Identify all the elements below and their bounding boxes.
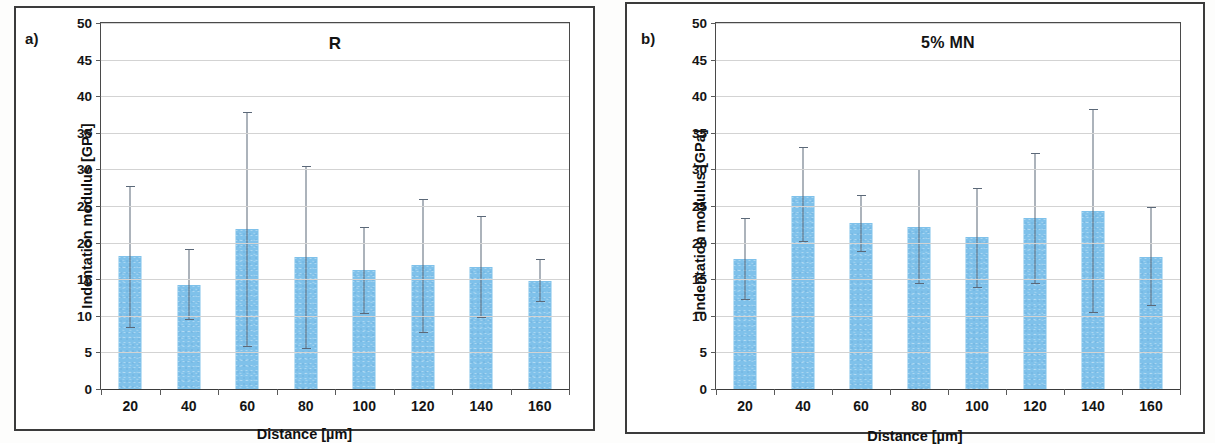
- y-tick-label: 40: [692, 89, 707, 104]
- y-tick-label: 5: [699, 345, 707, 360]
- gridline: [101, 169, 569, 170]
- error-bar-cap-top: [857, 195, 866, 196]
- error-bar-cap-bottom: [973, 287, 982, 288]
- y-tick-label: 45: [77, 52, 92, 67]
- x-tick-label: 140: [1081, 398, 1104, 414]
- x-tick-mark: [160, 389, 161, 395]
- error-bar-cap-top: [302, 166, 311, 167]
- gridline: [101, 279, 569, 280]
- error-bar-cap-bottom: [419, 332, 428, 333]
- error-bar: [539, 259, 540, 301]
- y-tick-mark: [711, 133, 716, 134]
- gridline: [716, 206, 1180, 207]
- gridline: [716, 169, 1180, 170]
- y-tick-label: 30: [692, 162, 707, 177]
- y-tick-mark: [96, 316, 101, 317]
- error-bar-cap-bottom: [1089, 312, 1098, 313]
- x-tick-label: 160: [1139, 398, 1162, 414]
- x-tick-mark: [1006, 389, 1007, 395]
- x-tick-label: 40: [181, 398, 197, 414]
- gridline: [101, 243, 569, 244]
- gridline: [716, 23, 1180, 24]
- error-bar-cap-bottom: [915, 283, 924, 284]
- y-tick-mark: [711, 206, 716, 207]
- gridline: [716, 133, 1180, 134]
- panel-a-letter: a): [25, 30, 39, 47]
- error-bar-cap-top: [1031, 153, 1040, 154]
- error-bar: [919, 169, 920, 284]
- y-tick-label: 5: [84, 345, 92, 360]
- x-tick-label: 140: [470, 398, 493, 414]
- y-tick-mark: [711, 23, 716, 24]
- error-bar-cap-bottom: [185, 319, 194, 320]
- gridline: [101, 206, 569, 207]
- panel-b: b) Indentation modulus [GPa] 5% MN 05101…: [625, 2, 1205, 434]
- x-tick-mark: [277, 389, 278, 395]
- error-bar-cap-bottom: [126, 327, 135, 328]
- x-tick-mark: [218, 389, 219, 395]
- y-tick-mark: [711, 352, 716, 353]
- error-bar-cap-bottom: [360, 313, 369, 314]
- gridline: [716, 96, 1180, 97]
- y-tick-mark: [96, 23, 101, 24]
- x-tick-mark: [335, 389, 336, 395]
- y-tick-label: 15: [77, 272, 92, 287]
- y-tick-mark: [96, 279, 101, 280]
- gridline: [101, 96, 569, 97]
- error-bar-cap-top: [536, 259, 545, 260]
- error-bar-cap-bottom: [1031, 283, 1040, 284]
- x-tick-mark: [1180, 389, 1181, 395]
- error-bar-cap-top: [973, 188, 982, 189]
- x-tick-mark: [569, 389, 570, 395]
- y-tick-label: 25: [77, 199, 92, 214]
- x-tick-mark: [832, 389, 833, 395]
- x-tick-label: 20: [122, 398, 138, 414]
- y-tick-mark: [96, 60, 101, 61]
- y-tick-mark: [711, 243, 716, 244]
- y-tick-label: 25: [692, 199, 707, 214]
- error-bar-cap-bottom: [302, 348, 311, 349]
- error-bar-cap-top: [799, 147, 808, 148]
- y-tick-mark: [711, 96, 716, 97]
- panel-b-y-axis-title: Indentation modulus [GPa]: [692, 129, 708, 314]
- error-bar-cap-top: [243, 112, 252, 113]
- x-tick-label: 60: [853, 398, 869, 414]
- y-tick-label: 35: [692, 125, 707, 140]
- y-tick-label: 0: [699, 382, 707, 397]
- panel-a: a) Indentation modulus [GPa] R 051015202…: [14, 6, 595, 431]
- error-bar: [1151, 207, 1152, 305]
- y-tick-mark: [96, 96, 101, 97]
- x-tick-label: 40: [795, 398, 811, 414]
- error-bar-cap-bottom: [857, 251, 866, 252]
- x-tick-label: 100: [353, 398, 376, 414]
- y-tick-label: 40: [77, 89, 92, 104]
- error-bar: [188, 249, 189, 320]
- x-tick-mark: [948, 389, 949, 395]
- y-tick-label: 45: [692, 52, 707, 67]
- error-bar: [481, 216, 482, 318]
- error-bar: [305, 166, 306, 350]
- panel-b-plot-area: 5% MN 0510152025303540455020406080100120…: [715, 22, 1181, 390]
- x-tick-mark: [774, 389, 775, 395]
- y-tick-label: 20: [77, 235, 92, 250]
- panel-b-letter: b): [641, 30, 656, 47]
- error-bar-cap-bottom: [741, 299, 750, 300]
- x-tick-label: 80: [298, 398, 314, 414]
- error-bar-cap-top: [1089, 109, 1098, 110]
- error-bar-cap-top: [419, 199, 428, 200]
- error-bar-cap-top: [477, 216, 486, 217]
- error-bar-cap-top: [126, 186, 135, 187]
- gridline: [716, 279, 1180, 280]
- x-tick-mark: [394, 389, 395, 395]
- y-tick-mark: [96, 169, 101, 170]
- error-bar: [977, 188, 978, 288]
- x-tick-mark: [101, 389, 102, 395]
- error-bar: [803, 147, 804, 241]
- error-bar-cap-top: [1147, 207, 1156, 208]
- x-tick-label: 60: [239, 398, 255, 414]
- y-tick-mark: [96, 133, 101, 134]
- x-tick-label: 120: [1023, 398, 1046, 414]
- error-bar-cap-bottom: [243, 346, 252, 347]
- y-tick-mark: [711, 316, 716, 317]
- error-bar-cap-top: [360, 227, 369, 228]
